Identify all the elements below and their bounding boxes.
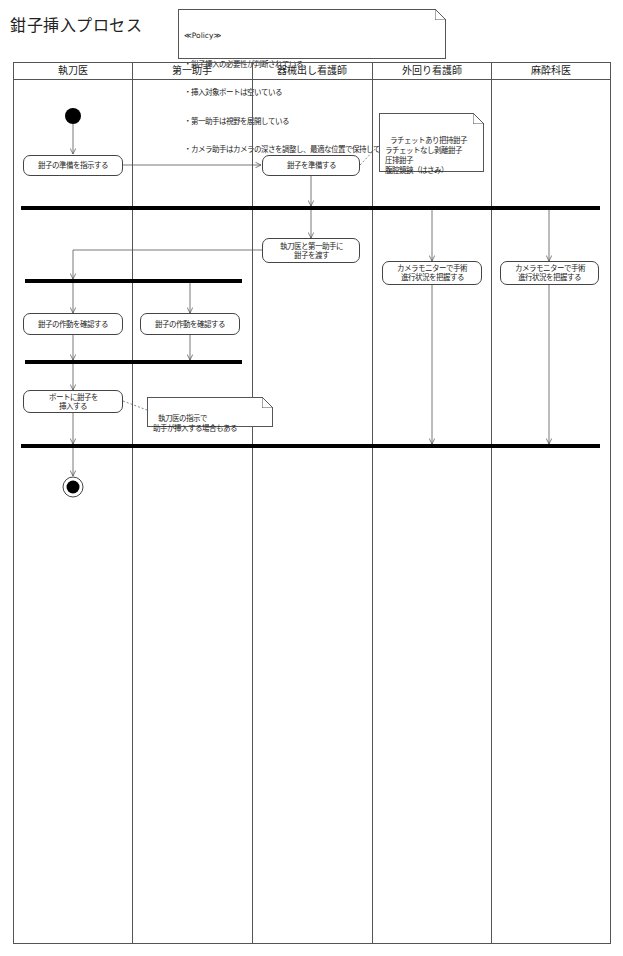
activity-monitor-progress-anesthesia[interactable]: カメラモニターで手術 進行状況を把握する [500,261,599,285]
fork-bar [21,206,600,210]
activity-monitor-progress-circulating[interactable]: カメラモニターで手術 進行状況を把握する [382,261,482,285]
activity-instruct-preparation[interactable]: 鉗子の準備を指示する [23,155,123,176]
assistant-insertion-text: 執刀医の指示で 助手が挿入する場合もある [153,414,237,433]
activity-insert-forceps[interactable]: ポートに鉗子を 挿入する [23,390,123,413]
fork-bar [25,279,242,283]
activity-hand-forceps[interactable]: 執刀医と第一助手に 鉗子を渡す [262,238,360,263]
note-fold-icon [473,113,484,124]
activity-check-forceps-assistant[interactable]: 鉗子の作動を確認する [140,313,240,335]
initial-node [65,108,81,124]
activity-check-forceps-surgeon[interactable]: 鉗子の作動を確認する [23,313,123,335]
forceps-types-note: ラチェットあり把持鉗子 ラチェットなし剥離鉗子 圧排鉗子 腹腔鏡鋏（はさみ） [379,113,484,172]
final-node [63,477,83,497]
note-fold-icon [262,397,273,408]
join-bar [21,444,600,448]
join-bar [25,360,242,364]
assistant-insertion-note: 執刀医の指示で 助手が挿入する場合もある [147,397,273,427]
forceps-types-text: ラチェットあり把持鉗子 ラチェットなし剥離鉗子 圧排鉗子 腹腔鏡鋏（はさみ） [385,136,467,175]
activity-prepare-forceps[interactable]: 鉗子を準備する [262,155,360,176]
flow-edges [0,0,623,956]
